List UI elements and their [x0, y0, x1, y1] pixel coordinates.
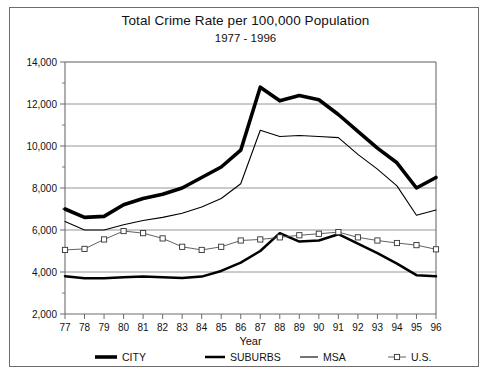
- x-axis-labels: 7778798081828384858687888990919293949596: [59, 322, 442, 333]
- x-tick-label: 81: [138, 322, 150, 333]
- x-tick-label: 89: [294, 322, 306, 333]
- x-tick-label: 93: [372, 322, 384, 333]
- series-us-marker: [62, 247, 67, 252]
- x-tick-label: 77: [59, 322, 71, 333]
- y-tick-label: 10,000: [26, 141, 57, 152]
- legend-label-us: U.S.: [411, 351, 431, 363]
- series-us-marker: [414, 243, 419, 248]
- series-us-marker: [433, 247, 438, 252]
- series-us-marker: [297, 233, 302, 238]
- x-tick-label: 84: [196, 322, 208, 333]
- y-tick-label: 2,000: [32, 309, 57, 320]
- x-axis-ticks: [65, 314, 436, 319]
- legend-label-city: CITY: [122, 351, 146, 363]
- series-us-marker: [199, 247, 204, 252]
- x-tick-label: 82: [157, 322, 169, 333]
- x-tick-label: 90: [313, 322, 325, 333]
- chart-figure: Total Crime Rate per 100,000 Population …: [0, 0, 491, 383]
- series-us-marker: [277, 235, 282, 240]
- x-tick-label: 91: [333, 322, 345, 333]
- x-tick-label: 96: [430, 322, 442, 333]
- x-tick-label: 88: [274, 322, 286, 333]
- series-us-marker: [101, 237, 106, 242]
- series-us-marker: [316, 231, 321, 236]
- y-axis-labels: 2,0004,0006,0008,00010,00012,00014,000: [26, 57, 57, 320]
- series-us-marker: [180, 244, 185, 249]
- series-us-marker: [238, 238, 243, 243]
- x-tick-label: 80: [118, 322, 130, 333]
- series-us-marker: [141, 231, 146, 236]
- series-us-marker: [160, 236, 165, 241]
- series-msa-line: [65, 130, 436, 230]
- legend-label-msa: MSA: [323, 351, 346, 363]
- series-us-marker: [375, 238, 380, 243]
- chart-legend: CITYSUBURBSMSAU.S.: [95, 351, 431, 363]
- x-tick-label: 79: [98, 322, 110, 333]
- x-tick-label: 87: [255, 322, 267, 333]
- y-tick-label: 4,000: [32, 267, 57, 278]
- data-series-group: [62, 87, 438, 278]
- plot-area: 2,0004,0006,0008,00010,00012,00014,000 7…: [0, 0, 491, 383]
- series-us-marker: [394, 240, 399, 245]
- y-tick-label: 8,000: [32, 183, 57, 194]
- y-tick-label: 14,000: [26, 57, 57, 68]
- series-us-marker: [219, 244, 224, 249]
- legend-label-suburbs: SUBURBS: [230, 351, 281, 363]
- legend-marker-us: [394, 354, 399, 359]
- x-tick-label: 86: [235, 322, 247, 333]
- x-tick-label: 85: [216, 322, 228, 333]
- x-tick-label: 95: [411, 322, 423, 333]
- x-tick-label: 78: [79, 322, 91, 333]
- series-city-line: [65, 87, 436, 217]
- y-tick-label: 12,000: [26, 99, 57, 110]
- series-us-marker: [258, 237, 263, 242]
- series-us-marker: [336, 230, 341, 235]
- x-tick-label: 83: [177, 322, 189, 333]
- series-us-marker: [355, 235, 360, 240]
- series-us-marker: [82, 246, 87, 251]
- x-axis-title: Year: [239, 335, 262, 347]
- x-tick-label: 92: [352, 322, 364, 333]
- y-tick-label: 6,000: [32, 225, 57, 236]
- x-tick-label: 94: [391, 322, 403, 333]
- series-us-marker: [121, 228, 126, 233]
